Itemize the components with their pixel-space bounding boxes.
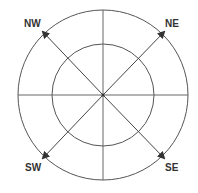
label-northeast: NE	[165, 19, 179, 29]
center-point	[102, 94, 105, 97]
arrow-ne	[103, 32, 164, 95]
label-southeast: SE	[165, 163, 178, 173]
label-southwest: SW	[25, 163, 41, 173]
arrow-se	[103, 95, 164, 158]
arrow-sw	[43, 95, 103, 158]
label-northwest: NW	[24, 19, 41, 29]
compass-diagram: NW NE SW SE	[0, 0, 198, 193]
arrow-nw	[43, 32, 103, 95]
